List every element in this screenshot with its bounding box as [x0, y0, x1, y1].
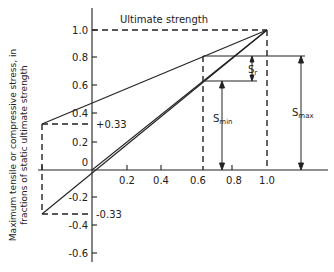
- y-tick-label: -0.2: [68, 192, 88, 203]
- goodman-diagram: 1.0 0.8 0.6 0.4 0.2 0 -0.2 -0.4 -0.6 0.2…: [0, 0, 334, 272]
- y-tick-label: 0.4: [72, 108, 88, 119]
- y-tick-label: -0.4: [68, 220, 88, 231]
- ultimate-strength-label: Ultimate strength: [120, 14, 208, 25]
- x-tick-label: 0.4: [153, 175, 169, 186]
- x-tick-label: 0.8: [226, 175, 242, 186]
- y-axis-label-line2: fractions of static ultimate strength: [19, 65, 29, 225]
- y-tick-label: 0.6: [72, 80, 88, 91]
- y-axis-label-line1: Maximum tensile or compressive stress, i…: [8, 49, 18, 241]
- x-tick-label: 0.6: [190, 175, 206, 186]
- plus-033-label: +0.33: [96, 119, 127, 130]
- x-tick-label: 0.2: [119, 175, 135, 186]
- s-min-label: Smin: [213, 113, 233, 126]
- y-tick-label: 0.8: [72, 52, 88, 63]
- minus-033-label: -0.33: [96, 209, 122, 220]
- y-tick-label: -0.6: [68, 248, 88, 259]
- origin-line: [92, 30, 267, 170]
- s-max-label: Smax: [292, 107, 314, 120]
- x-tick-label: 1.0: [259, 175, 275, 186]
- y-tick-label: 0.2: [72, 137, 88, 148]
- y-tick-label: 0: [82, 157, 88, 168]
- y-tick-label: 1.0: [72, 25, 88, 36]
